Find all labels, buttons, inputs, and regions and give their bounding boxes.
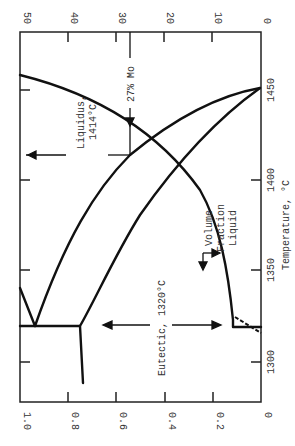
top-tick-20: 20 xyxy=(164,12,175,24)
volume-fraction-curve xyxy=(20,75,261,327)
mo-27-label: 27% Mo xyxy=(126,66,137,102)
vfl-label-2: Fraction xyxy=(216,204,227,252)
bottom-axis-ticks xyxy=(68,392,213,402)
bottom-tick-labels: 1.0 0.8 0.6 0.4 0.2 0 xyxy=(21,412,273,430)
bottom-tick-0.6: 0.6 xyxy=(117,412,128,430)
phase-diagram-chart: 50 40 30 20 10 0 1.0 0.8 0.6 0.4 0.2 0 1… xyxy=(0,0,295,446)
top-tick-40: 40 xyxy=(68,12,79,24)
volume-fraction-dashed xyxy=(235,317,261,333)
top-tick-labels: 50 40 30 20 10 0 xyxy=(21,12,272,24)
bottom-tick-0.4: 0.4 xyxy=(166,412,177,430)
bottom-tick-0.2: 0.2 xyxy=(214,412,225,430)
top-tick-10: 10 xyxy=(212,12,223,24)
top-tick-30: 30 xyxy=(116,12,127,24)
bottom-tick-1.0: 1.0 xyxy=(21,412,32,430)
top-tick-50: 50 xyxy=(21,12,32,24)
bottom-tick-0: 0 xyxy=(262,412,273,418)
liquidus-label-2: 1414°C xyxy=(88,104,99,140)
right-tick-1300: 1300 xyxy=(266,350,277,374)
vfl-label-3: Liquid xyxy=(228,210,239,246)
mo-rich-boundary xyxy=(20,288,35,326)
top-axis-ticks xyxy=(68,32,212,42)
vfl-label-1: Volume xyxy=(204,210,215,246)
eutectic-label: Eutectic, 1320°C xyxy=(157,280,168,376)
bottom-tick-0.8: 0.8 xyxy=(69,412,80,430)
right-tick-labels: 1450 1400 1350 1300 xyxy=(266,78,277,374)
temperature-axis-title: Temperature, °C xyxy=(281,180,292,270)
top-tick-0: 0 xyxy=(261,18,272,24)
right-tick-1350: 1350 xyxy=(266,258,277,282)
right-tick-1400: 1400 xyxy=(266,168,277,192)
right-tick-1450: 1450 xyxy=(266,78,277,102)
liquidus-label-1: Liquidus, xyxy=(76,95,87,149)
liquidus-arrow xyxy=(26,151,66,159)
